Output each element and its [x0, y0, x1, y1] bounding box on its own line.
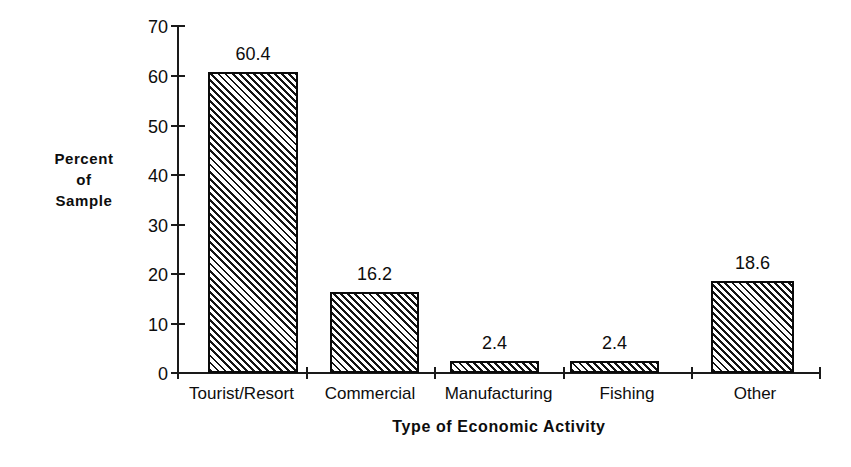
x-category-label-other: Other [691, 384, 819, 404]
bar-value-tourist-resort: 60.4 [208, 45, 298, 63]
x-tick-mark-0 [177, 367, 179, 379]
bar-tourist-resort [208, 72, 298, 373]
x-axis-title: Type of Economic Activity [177, 418, 821, 436]
y-tick-label-60: 60 [134, 68, 168, 86]
bar-value-manufacturing: 2.4 [450, 334, 539, 352]
bar-value-fishing: 2.4 [570, 334, 659, 352]
y-tick-label-20: 20 [134, 266, 168, 284]
bar-value-commercial: 16.2 [330, 265, 419, 283]
x-category-label-tourist-resort: Tourist/Resort [177, 384, 306, 404]
y-tick-label-0: 0 [134, 365, 168, 383]
bar-other [711, 281, 794, 373]
y-tick-label-50: 50 [134, 118, 168, 136]
x-tick-mark-1 [306, 367, 308, 379]
y-axis-line [177, 25, 179, 374]
x-tick-mark-4 [691, 367, 693, 379]
x-tick-mark-5 [819, 367, 821, 379]
y-axis-title-line-3: Sample [18, 190, 150, 211]
bar-fishing [570, 361, 659, 373]
bar-value-other: 18.6 [711, 254, 794, 272]
y-axis-title: Percent of Sample [18, 148, 150, 211]
y-tick-label-30: 30 [134, 217, 168, 235]
x-category-label-fishing: Fishing [563, 384, 691, 404]
y-axis-title-line-2: of [18, 169, 150, 190]
y-tick-label-70: 70 [134, 18, 168, 36]
x-category-label-manufacturing: Manufacturing [434, 384, 563, 404]
bar-manufacturing [450, 361, 539, 373]
x-tick-mark-3 [563, 367, 565, 379]
bar-commercial [330, 292, 419, 373]
x-category-label-commercial: Commercial [306, 384, 434, 404]
bar-chart: Percent of Sample 70 60 50 40 30 20 10 0… [0, 0, 851, 467]
x-tick-mark-2 [434, 367, 436, 379]
y-axis-title-line-1: Percent [18, 148, 150, 169]
y-tick-label-40: 40 [134, 167, 168, 185]
y-tick-label-10: 10 [134, 316, 168, 334]
